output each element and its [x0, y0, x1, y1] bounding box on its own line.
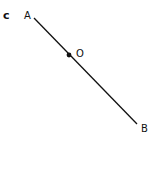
line-segment-diagram: c A O B — [0, 0, 153, 181]
point-a-label: A — [24, 10, 31, 21]
panel-label: c — [3, 9, 10, 22]
point-b-label: B — [141, 123, 148, 134]
point-o-label: O — [76, 48, 84, 59]
point-o-dot — [67, 53, 72, 58]
segment-ab — [34, 18, 137, 124]
